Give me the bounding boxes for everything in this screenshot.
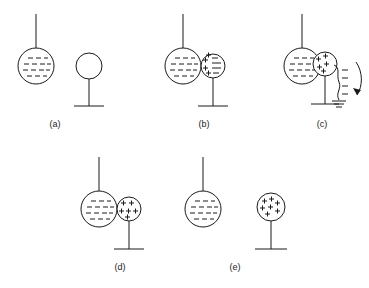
panel-e: (e) xyxy=(185,157,287,272)
charged-sphere-d xyxy=(81,191,117,227)
panel-label-c: (c) xyxy=(317,119,328,129)
induction-figure: (a) xyxy=(0,0,369,288)
panel-label-e: (e) xyxy=(230,262,241,272)
panel-label-a: (a) xyxy=(50,119,61,129)
panel-a: (a) xyxy=(18,14,104,129)
charged-sphere-b xyxy=(165,48,201,84)
electron-flow-arrow-c xyxy=(353,62,361,95)
neutral-sphere-a xyxy=(76,53,102,79)
panel-label-d: (d) xyxy=(115,262,126,272)
panel-b: (b) xyxy=(165,14,228,129)
charged-sphere-a xyxy=(18,48,54,84)
panel-c: (c) xyxy=(284,14,361,129)
electron-flow-marks-c xyxy=(342,70,348,94)
charged-sphere-e xyxy=(185,191,221,227)
panel-d: (d) xyxy=(81,157,144,272)
panel-label-b: (b) xyxy=(199,119,210,129)
ground-symbol-c xyxy=(332,101,346,107)
